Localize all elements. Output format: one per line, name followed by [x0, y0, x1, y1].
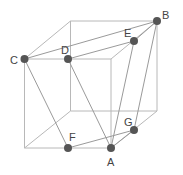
point-label-D: D	[61, 44, 69, 56]
edge-bottom-left	[25, 111, 71, 148]
point-F	[64, 144, 72, 152]
point-label-E: E	[124, 27, 131, 39]
point-B	[153, 17, 161, 25]
labeled-points: ABCDEFG	[10, 9, 169, 168]
segment-FG	[68, 130, 134, 148]
point-label-C: C	[10, 54, 18, 66]
point-label-F: F	[69, 131, 76, 143]
segment-CF	[25, 59, 69, 148]
point-label-B: B	[162, 9, 169, 21]
point-label-A: A	[107, 156, 115, 168]
cube-diagram: ABCDEFG	[0, 0, 183, 175]
point-label-G: G	[124, 116, 133, 128]
point-C	[21, 55, 29, 63]
point-D	[64, 55, 72, 63]
point-A	[107, 144, 115, 152]
